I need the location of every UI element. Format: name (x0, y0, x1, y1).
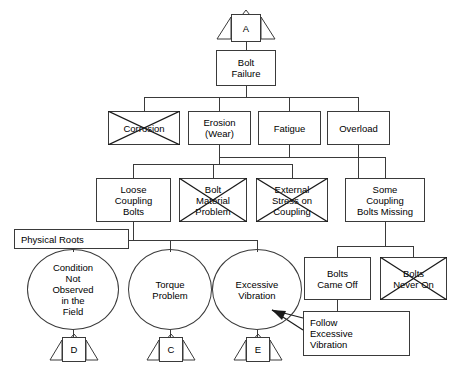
node-follow-excessive-vibration: Follow Excessive Vibration (303, 311, 410, 356)
node-external-stress-on-coupling-label: External Stress on Coupling (272, 184, 312, 217)
node-condition-not-observed: Condition Not Observed in the Field (27, 249, 119, 330)
node-bolts-came-off: Bolts Came Off (304, 257, 371, 300)
node-loose-coupling-bolts: Loose Coupling Bolts (96, 178, 171, 222)
node-torque-problem: Torque Problem (128, 249, 212, 330)
transfer-d-box: D (62, 337, 86, 362)
label-physical-roots: Physical Roots (14, 229, 129, 249)
node-follow-excessive-vibration-label: Follow Excessive Vibration (310, 317, 353, 350)
node-fatigue-label: Fatigue (274, 123, 306, 134)
node-bolts-never-on-label: Bolts Never On (393, 268, 434, 290)
transfer-symbol-d: D (48, 333, 100, 365)
node-excessive-vibration-label: Excessive Vibration (236, 279, 279, 301)
node-bolt-failure-label: Bolt Failure (231, 57, 260, 79)
node-bolts-never-on: Bolts Never On (380, 257, 447, 300)
node-condition-not-observed-label: Condition Not Observed in the Field (52, 262, 93, 317)
transfer-symbol-c: C (145, 333, 197, 365)
node-bolt-failure: Bolt Failure (216, 50, 276, 86)
node-erosion-wear: Erosion (Wear) (188, 111, 251, 145)
transfer-e-box: E (246, 337, 270, 362)
node-bolt-material-problem-label: Bolt Material Problem (195, 184, 230, 217)
transfer-symbol-a: A (215, 8, 277, 42)
node-corrosion-label: Corrosion (123, 123, 164, 134)
fault-tree-diagram: A Bolt Failure Corrosion Erosion (Wear) … (0, 0, 459, 368)
node-some-coupling-bolts-missing-label: Some Coupling Bolts Missing (357, 184, 413, 217)
node-torque-problem-label: Torque Problem (152, 279, 187, 301)
transfer-a-label: A (243, 23, 249, 34)
transfer-a-box: A (231, 14, 261, 42)
node-bolts-came-off-label: Bolts Came Off (317, 268, 357, 290)
node-some-coupling-bolts-missing: Some Coupling Bolts Missing (345, 178, 425, 222)
label-physical-roots-text: Physical Roots (21, 234, 84, 245)
transfer-symbol-e: E (232, 333, 284, 365)
transfer-e-label: E (255, 344, 261, 355)
node-erosion-wear-label: Erosion (Wear) (203, 117, 235, 139)
transfer-c-label: C (168, 344, 175, 355)
node-loose-coupling-bolts-label: Loose Coupling Bolts (115, 184, 153, 217)
node-external-stress-on-coupling: External Stress on Coupling (256, 178, 328, 222)
transfer-d-label: D (71, 344, 78, 355)
node-corrosion: Corrosion (108, 111, 180, 145)
transfer-c-box: C (159, 337, 183, 362)
node-bolt-material-problem: Bolt Material Problem (179, 178, 247, 222)
node-overload: Overload (327, 111, 390, 145)
node-excessive-vibration: Excessive Vibration (212, 249, 302, 330)
node-overload-label: Overload (339, 123, 378, 134)
node-fatigue: Fatigue (258, 111, 321, 145)
